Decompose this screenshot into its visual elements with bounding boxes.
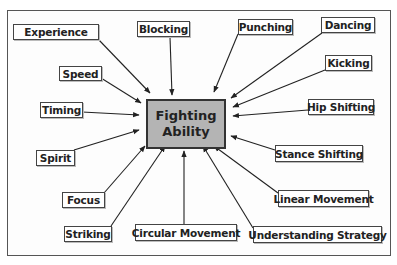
factor-blocking: Blocking <box>137 21 190 37</box>
fighting-ability-box: Fighting Ability <box>146 99 226 149</box>
arrow-speed <box>101 78 141 103</box>
factor-punching: Punching <box>238 19 293 35</box>
arrow-blocking <box>170 37 172 95</box>
factor-spirit: Spirit <box>36 150 75 166</box>
arrow-striking <box>111 146 165 226</box>
center-label-line1: Fighting <box>155 108 216 124</box>
arrow-stance-shifting <box>231 136 275 150</box>
factor-hip-shifting: Hip Shifting <box>308 99 374 115</box>
arrow-punching <box>214 34 238 92</box>
factor-striking: Striking <box>64 226 112 242</box>
arrow-linear-movement <box>214 146 278 193</box>
factor-speed: Speed <box>59 66 102 81</box>
arrow-focus <box>104 146 145 193</box>
arrow-spirit <box>74 130 139 150</box>
factor-focus: Focus <box>62 192 105 208</box>
center-label-line2: Ability <box>162 124 209 140</box>
arrow-timing <box>82 112 139 115</box>
factor-kicking: Kicking <box>325 55 372 71</box>
factor-understanding-strategy: Understanding Strategy <box>253 226 382 243</box>
arrow-understanding-strategy <box>203 146 253 228</box>
factor-experience: Experience <box>13 24 99 40</box>
factor-stance-shifting: Stance Shifting <box>275 145 363 162</box>
factor-dancing: Dancing <box>321 17 375 33</box>
factor-circular-movement: Circular Movement <box>135 224 237 241</box>
arrow-dancing <box>231 33 322 98</box>
arrow-hip-shifting <box>233 110 308 116</box>
arrow-experience <box>98 39 150 93</box>
factor-timing: Timing <box>40 102 83 118</box>
factor-linear-movement: Linear Movement <box>278 190 369 207</box>
